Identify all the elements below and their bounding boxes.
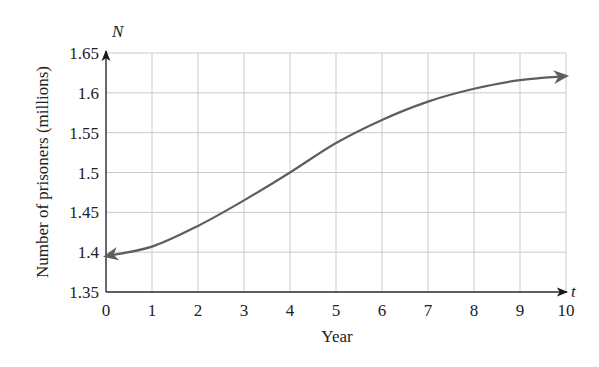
x-tick-label: 1 xyxy=(148,301,157,320)
y-tick-labels: 1.351.41.451.51.551.61.65 xyxy=(69,44,99,302)
x-tick-label: 9 xyxy=(516,301,525,320)
y-tick-label: 1.35 xyxy=(69,283,99,302)
y-tick-label: 1.4 xyxy=(78,243,100,262)
y-variable-label: N xyxy=(111,22,125,41)
chart: 012345678910 1.351.41.451.51.551.61.65 t… xyxy=(0,0,599,367)
y-tick-label: 1.45 xyxy=(69,203,99,222)
x-tick-labels: 012345678910 xyxy=(102,301,575,320)
x-tick-label: 3 xyxy=(240,301,249,320)
y-tick-label: 1.5 xyxy=(78,164,99,183)
x-tick-label: 5 xyxy=(332,301,341,320)
x-tick-label: 6 xyxy=(378,301,387,320)
x-tick-label: 4 xyxy=(286,301,295,320)
x-variable-label: t xyxy=(571,282,577,301)
chart-svg: 012345678910 1.351.41.451.51.551.61.65 t… xyxy=(0,0,599,367)
x-tick-label: 2 xyxy=(194,301,203,320)
y-axis-title: Number of prisoners (millions) xyxy=(33,66,52,278)
y-tick-label: 1.6 xyxy=(78,84,99,103)
y-tick-label: 1.65 xyxy=(69,44,99,63)
x-tick-label: 0 xyxy=(102,301,111,320)
x-tick-label: 7 xyxy=(424,301,433,320)
y-tick-label: 1.55 xyxy=(69,124,99,143)
x-tick-label: 8 xyxy=(470,301,479,320)
x-tick-label: 10 xyxy=(558,301,575,320)
x-axis-title: Year xyxy=(321,327,353,346)
gridlines xyxy=(106,53,566,292)
